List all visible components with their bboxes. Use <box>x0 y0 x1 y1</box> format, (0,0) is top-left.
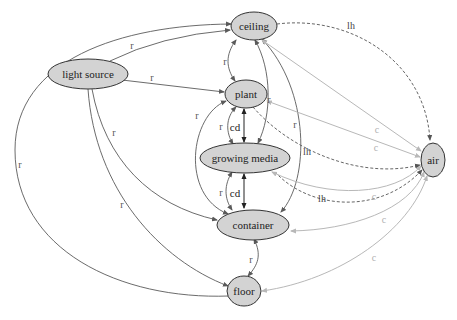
node-air[interactable]: air <box>421 143 445 177</box>
node-floor-label: floor <box>233 285 255 297</box>
label-lh-plant-air: lh <box>303 146 311 157</box>
label-cd-growing-media-container: cd <box>230 187 241 199</box>
label-r-container-floor: r <box>249 254 253 265</box>
edge-floor-air-c <box>262 176 427 291</box>
label-r-outer-arc: r <box>18 159 22 170</box>
edge-light-source-ceiling <box>110 30 230 61</box>
label-r-light-ceiling: r <box>130 40 134 51</box>
label-c-ceiling-air: c <box>375 124 380 135</box>
label-r-light-container: r <box>112 127 116 138</box>
node-ceiling-label: ceiling <box>239 20 269 32</box>
label-r-plant-growing-media: r <box>219 121 223 132</box>
node-growing-media-label: growing media <box>212 152 278 164</box>
edge-light-source-plant <box>122 80 224 92</box>
heat-transfer-diagram: r r r r r r r r r r r r cd cd lh lh lh c… <box>0 0 457 320</box>
node-light-source[interactable]: light source <box>48 59 128 89</box>
label-c-growing-media-air: c <box>372 191 377 202</box>
node-growing-media[interactable]: growing media <box>200 143 290 173</box>
label-lh-ceiling-air: lh <box>347 20 355 31</box>
node-air-label: air <box>427 154 439 166</box>
node-plant[interactable]: plant <box>225 80 267 108</box>
edge-growing-media-air-lh <box>275 170 422 202</box>
label-cd-plant-growing-media: cd <box>230 121 241 133</box>
label-c-floor-air: c <box>372 252 377 263</box>
label-c-container-air: c <box>382 214 387 225</box>
edge-ceiling-floor-outer <box>15 24 231 296</box>
node-plant-label: plant <box>235 88 257 100</box>
edge-plant-air-c <box>267 101 420 157</box>
label-r-growing-media-container: r <box>219 187 223 198</box>
label-r-light-plant: r <box>150 72 154 83</box>
label-r-ceiling-container: r <box>293 119 297 130</box>
edge-ceiling-air-lh <box>277 23 430 140</box>
edge-ceiling-air-c <box>262 40 421 151</box>
edge-light-source-floor <box>88 89 228 286</box>
label-r-plant-container: r <box>195 110 199 121</box>
node-light-source-label: light source <box>62 68 114 80</box>
label-r-ceiling-plant: r <box>223 56 227 67</box>
node-ceiling[interactable]: ceiling <box>231 12 277 40</box>
node-floor[interactable]: floor <box>227 276 261 306</box>
label-lh-growing-media-air: lh <box>318 193 326 204</box>
node-container[interactable]: container <box>217 210 289 240</box>
label-c-plant-air: c <box>374 142 379 153</box>
edge-ceiling-plant <box>228 40 236 81</box>
node-container-label: container <box>233 219 274 231</box>
